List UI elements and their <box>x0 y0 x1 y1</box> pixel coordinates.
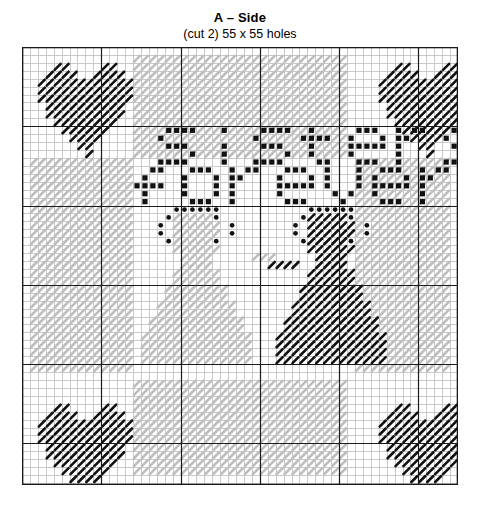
page-title: A – Side <box>0 10 480 25</box>
chart-title-block: A – Side (cut 2) 55 x 55 holes <box>0 0 480 42</box>
page-subtitle: (cut 2) 55 x 55 holes <box>0 27 480 42</box>
stitch-chart-canvas <box>22 47 458 485</box>
pattern-page: A – Side (cut 2) 55 x 55 holes <box>0 0 480 505</box>
pattern-grid <box>22 47 458 485</box>
